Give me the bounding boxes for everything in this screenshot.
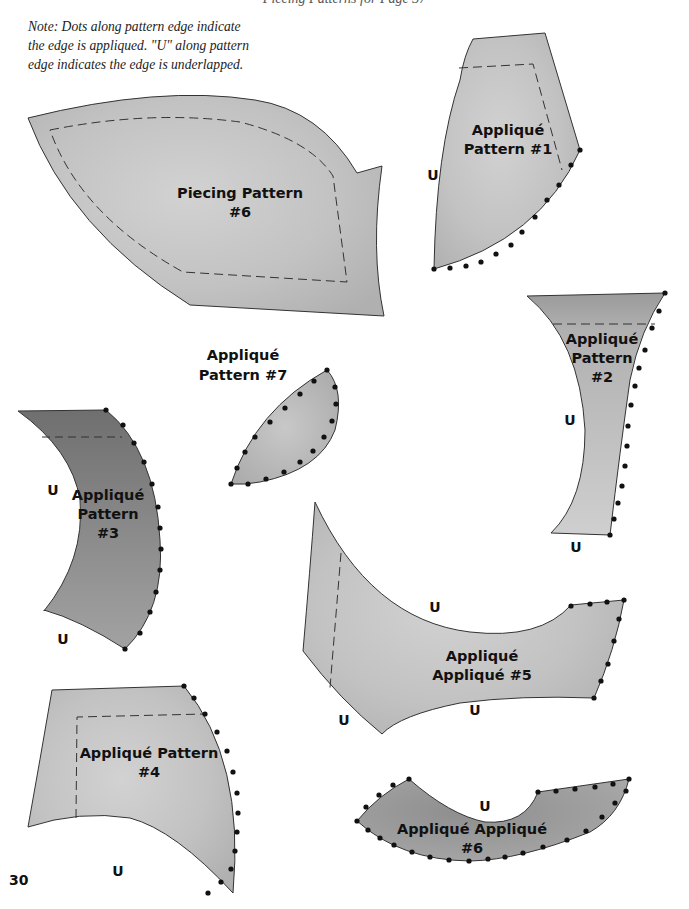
applique-4-label-1: Appliqué Pattern	[80, 745, 219, 761]
underlap-mark: U	[57, 631, 68, 647]
applique-2-label-3: #2	[591, 369, 613, 385]
underlap-mark: U	[479, 798, 490, 814]
applique-pattern-6: Appliqué Appliqué #6 U	[354, 776, 631, 863]
underlap-mark: U	[112, 863, 123, 879]
applique-pattern-1: Appliqué Pattern #1 U	[427, 33, 582, 272]
applique-pattern-3: Appliqué Pattern #3 U U	[18, 407, 164, 651]
applique-pattern-7: Appliqué Pattern #7	[199, 347, 339, 487]
applique-7-label-2: Pattern #7	[199, 367, 287, 383]
applique-6-label-2: #6	[461, 840, 483, 856]
underlap-mark: U	[469, 702, 480, 718]
underlap-mark: U	[338, 712, 349, 728]
applique-6-label-1: Appliqué Appliqué	[397, 821, 547, 837]
applique-pattern-5: Appliqué Appliqué #5 U U U	[303, 502, 627, 734]
applique-3-label-1: Appliqué	[72, 487, 145, 503]
applique-7-label-1: Appliqué	[207, 347, 280, 363]
underlap-mark: U	[429, 599, 440, 615]
applique-2-label-2: Pattern	[571, 350, 632, 366]
underlap-mark: U	[427, 167, 438, 183]
applique-4-label-2: #4	[138, 764, 160, 780]
page-number: 30	[9, 872, 28, 888]
applique-3-label-2: Pattern	[77, 506, 138, 522]
applique-5-label-2: Appliqué #5	[432, 667, 532, 683]
applique-2-label-1: Appliqué	[566, 331, 639, 347]
applique-1-label-1: Appliqué	[472, 122, 545, 138]
piecing-6-label-1: Piecing Pattern	[177, 185, 303, 201]
piecing-6-label-2: #6	[229, 204, 251, 220]
applique-3-label-3: #3	[97, 525, 119, 541]
applique-1-label-2: Pattern #1	[464, 141, 552, 157]
applique-pattern-2: Appliqué Pattern #2 U U	[527, 290, 668, 555]
applique-pattern-4: Appliqué Pattern #4 U	[28, 683, 241, 895]
piecing-pattern-6: Piecing Pattern #6	[28, 95, 384, 316]
underlap-mark: U	[47, 482, 58, 498]
applique-5-label-1: Appliqué	[446, 648, 519, 664]
underlap-mark: U	[564, 412, 575, 428]
underlap-mark: U	[570, 539, 581, 555]
pattern-sheet: Piecing Pattern #6 Appliqué Pattern #1 U…	[0, 0, 689, 909]
